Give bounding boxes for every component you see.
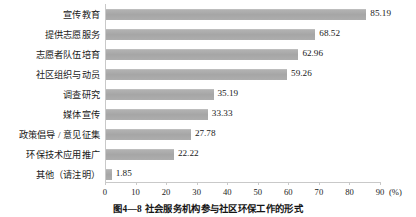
x-tick-label: 0 — [103, 187, 107, 198]
bar-row: 社区组织与动员59.26 — [0, 65, 416, 85]
category-label: 提供志愿服务 — [0, 30, 100, 41]
bar-fill — [106, 89, 214, 100]
bar-row: 志愿者队伍培育62.96 — [0, 45, 416, 65]
bar-value-label: 68.52 — [319, 27, 340, 40]
category-label: 环保技术应用推广 — [0, 150, 100, 161]
x-tick-mark — [105, 182, 106, 185]
x-tick-mark — [227, 182, 228, 185]
category-label: 宣传教育 — [0, 10, 100, 21]
bar-value-label: 62.96 — [302, 47, 323, 60]
bar-row: 政策倡导 / 意见征集27.78 — [0, 125, 416, 145]
bar-value-label: 59.26 — [291, 67, 312, 80]
bar-value-label: 22.22 — [178, 147, 199, 160]
x-tick-label: 10 — [131, 187, 140, 198]
bar-value-label: 1.85 — [116, 167, 132, 180]
x-tick-mark — [258, 182, 259, 185]
x-axis-line — [105, 182, 381, 183]
bar-fill — [106, 29, 315, 40]
bar-value-label: 27.78 — [195, 127, 216, 140]
x-tick-label: 20 — [162, 187, 171, 198]
bar-fill — [106, 169, 112, 180]
bar-fill — [106, 49, 298, 60]
category-label: 媒体宣传 — [0, 110, 100, 121]
x-tick-mark — [319, 182, 320, 185]
x-tick-mark — [380, 182, 381, 185]
bar-rows: 宣传教育85.19提供志愿服务68.52志愿者队伍培育62.96社区组织与动员5… — [0, 5, 416, 185]
x-tick-label: 60 — [284, 187, 293, 198]
x-tick-label: 80 — [345, 187, 354, 198]
bar-fill — [106, 9, 366, 20]
x-tick-label: 90 — [376, 187, 385, 198]
bar-row: 调查研究35.19 — [0, 85, 416, 105]
x-tick-mark — [136, 182, 137, 185]
bar — [106, 169, 112, 180]
plot-area: 宣传教育85.19提供志愿服务68.52志愿者队伍培育62.96社区组织与动员5… — [0, 0, 416, 186]
bar-fill — [106, 69, 287, 80]
bar-row: 媒体宣传33.33 — [0, 105, 416, 125]
bar-value-label: 85.19 — [370, 7, 391, 20]
x-tick-mark — [197, 182, 198, 185]
bar — [106, 149, 174, 160]
bar-row: 宣传教育85.19 — [0, 5, 416, 25]
x-tick-label: 50 — [253, 187, 262, 198]
x-tick-label: 70 — [315, 187, 324, 198]
bar-fill — [106, 109, 208, 120]
category-label: 志愿者队伍培育 — [0, 50, 100, 61]
x-tick-label: 30 — [192, 187, 201, 198]
x-axis-unit-label: (%) — [389, 187, 402, 198]
bar — [106, 49, 298, 60]
x-axis: 0102030405060708090 (%) — [0, 182, 416, 204]
bar-fill — [106, 149, 174, 160]
x-tick-mark — [288, 182, 289, 185]
bar-row: 提供志愿服务68.52 — [0, 25, 416, 45]
x-tick-mark — [349, 182, 350, 185]
figure-bar-chart: 宣传教育85.19提供志愿服务68.52志愿者队伍培育62.96社区组织与动员5… — [0, 0, 416, 217]
category-label: 其他（请注明） — [0, 170, 100, 181]
bar-fill — [106, 129, 191, 140]
category-label: 社区组织与动员 — [0, 70, 100, 81]
bar — [106, 109, 208, 120]
bar-value-label: 35.19 — [218, 87, 239, 100]
bar — [106, 9, 366, 20]
bar — [106, 69, 287, 80]
bar — [106, 129, 191, 140]
bar — [106, 89, 214, 100]
category-label: 政策倡导 / 意见征集 — [0, 130, 100, 141]
figure-caption: 图4—8 社会服务机构参与社区环保工作的形式 — [0, 203, 416, 215]
x-tick-label: 40 — [223, 187, 232, 198]
bar-row: 环保技术应用推广22.22 — [0, 145, 416, 165]
bar-value-label: 33.33 — [212, 107, 233, 120]
bar — [106, 29, 315, 40]
category-label: 调查研究 — [0, 90, 100, 101]
x-tick-mark — [166, 182, 167, 185]
